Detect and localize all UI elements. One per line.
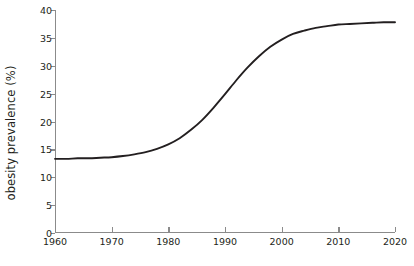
data-curve-svg	[55, 10, 395, 233]
x-tick-label: 2000	[270, 236, 294, 247]
x-tick-label: 1980	[156, 236, 180, 247]
y-tick-label: 20	[40, 116, 52, 127]
x-tick-label: 2010	[326, 236, 350, 247]
x-tick-label: 1960	[43, 236, 67, 247]
y-tick-label: 10	[40, 172, 52, 183]
x-tick-label: 2020	[383, 236, 407, 247]
chart-container: obesity prevalence (%) 0510152025303540 …	[0, 0, 414, 266]
y-tick-label: 30	[40, 60, 52, 71]
x-tick-mark	[395, 227, 396, 232]
y-tick-label: 25	[40, 88, 52, 99]
series-line-obesity-prevalence	[55, 22, 395, 159]
y-tick-label: 40	[40, 5, 52, 16]
y-tick-label: 15	[40, 144, 52, 155]
plot-area: 0510152025303540 19601970198019902000201…	[55, 10, 395, 233]
y-axis-title: obesity prevalence (%)	[0, 0, 22, 266]
x-tick-label: 1970	[100, 236, 124, 247]
y-tick-label: 5	[46, 200, 52, 211]
x-tick-label: 1990	[213, 236, 237, 247]
y-tick-label: 35	[40, 32, 52, 43]
